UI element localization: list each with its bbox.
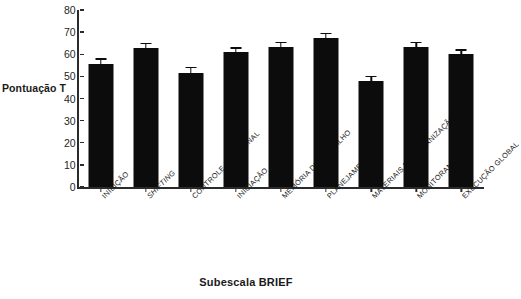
y-tick: 0: [70, 181, 78, 193]
error-bar-cap: [321, 33, 332, 34]
bar-slot: MATERIAIS DE ORGANIZAÇÃO: [349, 10, 394, 187]
error-bar: [145, 44, 146, 48]
error-bar-cap: [140, 43, 151, 44]
error-bar: [280, 43, 281, 46]
bar-slot: CONTROLE EMOCIONAL: [168, 10, 213, 187]
error-bar: [235, 49, 236, 52]
error-bar: [416, 43, 417, 47]
bar: [404, 47, 429, 187]
y-tick: 10: [64, 159, 78, 171]
bar: [178, 73, 203, 187]
bar: [449, 54, 474, 187]
bar: [88, 64, 113, 187]
y-tick: 40: [64, 93, 78, 105]
bar: [268, 47, 293, 187]
y-tick: 20: [64, 137, 78, 149]
bar: [223, 52, 248, 187]
error-bar-cap: [230, 47, 241, 48]
error-bar-cap: [456, 49, 467, 50]
bar-slot: INIBIÇÃO: [78, 10, 123, 187]
x-axis-title: Subescala BRIEF: [0, 276, 492, 288]
bar-slot: INICIAÇÃO: [213, 10, 258, 187]
bar: [314, 38, 339, 187]
error-bar-cap: [275, 42, 286, 43]
y-axis-title: Pontuação T: [2, 82, 66, 94]
y-tick: 80: [64, 4, 78, 16]
error-bar: [100, 60, 101, 64]
bar: [133, 48, 158, 187]
bar-slot: SHIFTING: [123, 10, 168, 187]
y-tick: 50: [64, 70, 78, 82]
bar-slot: EXECUÇÃO GLOBAL: [439, 10, 484, 187]
y-tick: 30: [64, 115, 78, 127]
error-bar: [190, 68, 191, 73]
bar: [359, 81, 384, 187]
y-tick: 70: [64, 26, 78, 38]
bar-slot: PLANEJAMENTO: [304, 10, 349, 187]
error-bar-cap: [366, 76, 377, 77]
error-bar: [325, 34, 326, 38]
error-bar: [461, 51, 462, 54]
y-tick: 60: [64, 48, 78, 60]
error-bar: [371, 77, 372, 81]
bar-slot: MONITORAMENTO: [394, 10, 439, 187]
plot-area: 80706050403020100 INIBIÇÃOSHIFTINGCONTRO…: [78, 10, 484, 187]
bar-slot: MEMÓRIA DE TRABALHO: [258, 10, 303, 187]
error-bar-cap: [95, 58, 106, 59]
error-bar-cap: [411, 42, 422, 43]
error-bar-cap: [185, 67, 196, 68]
